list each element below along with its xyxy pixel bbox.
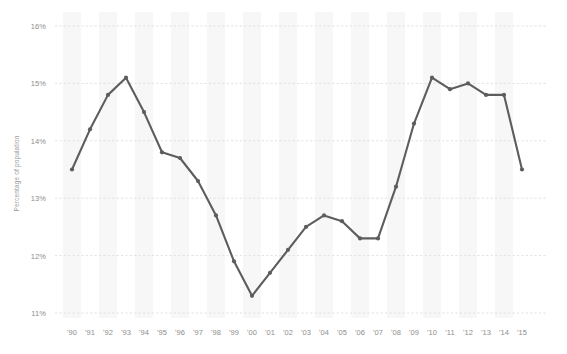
chart-band <box>495 12 513 318</box>
chart-band <box>99 12 117 318</box>
data-point[interactable] <box>484 93 488 97</box>
line-chart: Percentage of population 16% 15% 14% 13%… <box>0 0 567 354</box>
data-point[interactable] <box>376 236 380 240</box>
data-point[interactable] <box>322 213 326 217</box>
data-point[interactable] <box>448 87 452 91</box>
data-point[interactable] <box>70 167 74 171</box>
data-point[interactable] <box>142 110 146 114</box>
data-point[interactable] <box>520 167 524 171</box>
data-point[interactable] <box>304 225 308 229</box>
data-point[interactable] <box>358 236 362 240</box>
chart-band <box>315 12 333 318</box>
chart-band <box>459 12 477 318</box>
data-point[interactable] <box>412 121 416 125</box>
data-point[interactable] <box>502 93 506 97</box>
data-point[interactable] <box>340 219 344 223</box>
chart-band <box>423 12 441 318</box>
data-point[interactable] <box>124 76 128 80</box>
data-point[interactable] <box>232 259 236 263</box>
data-point[interactable] <box>394 185 398 189</box>
data-point[interactable] <box>160 150 164 154</box>
chart-band <box>63 12 81 318</box>
plot-area <box>0 0 567 354</box>
data-point[interactable] <box>250 294 254 298</box>
data-point[interactable] <box>430 76 434 80</box>
chart-band <box>135 12 153 318</box>
chart-band <box>207 12 225 318</box>
chart-band <box>351 12 369 318</box>
chart-band <box>243 12 261 318</box>
data-point[interactable] <box>268 271 272 275</box>
chart-band <box>279 12 297 318</box>
x-tick-label-15: '15 <box>510 328 534 337</box>
data-point[interactable] <box>196 179 200 183</box>
data-point[interactable] <box>88 127 92 131</box>
data-point[interactable] <box>178 156 182 160</box>
data-point[interactable] <box>106 93 110 97</box>
data-point[interactable] <box>286 248 290 252</box>
vertical-bands <box>63 12 513 318</box>
data-point[interactable] <box>466 81 470 85</box>
data-point[interactable] <box>214 213 218 217</box>
